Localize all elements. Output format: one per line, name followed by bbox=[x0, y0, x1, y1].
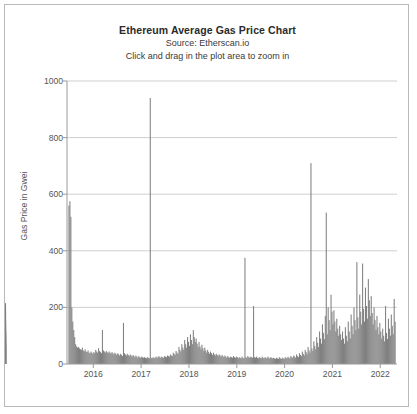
bar bbox=[329, 320, 330, 364]
bar bbox=[333, 310, 334, 364]
bar bbox=[96, 352, 97, 364]
bar bbox=[207, 350, 208, 364]
bar bbox=[250, 357, 251, 364]
bar bbox=[89, 353, 90, 364]
bar bbox=[128, 355, 129, 364]
bar bbox=[211, 353, 212, 364]
bar bbox=[209, 354, 210, 364]
bar bbox=[225, 357, 226, 364]
bar bbox=[366, 306, 367, 364]
bar bbox=[159, 357, 160, 364]
bar bbox=[297, 356, 298, 364]
bar bbox=[202, 348, 203, 364]
bar bbox=[387, 339, 388, 364]
bar bbox=[352, 326, 353, 364]
bar bbox=[361, 324, 362, 364]
bar bbox=[241, 358, 242, 364]
bar bbox=[304, 356, 305, 364]
bar bbox=[226, 358, 227, 364]
bar bbox=[260, 358, 261, 364]
bar bbox=[5, 352, 6, 364]
bar bbox=[239, 357, 240, 364]
bar bbox=[170, 354, 171, 364]
bar bbox=[224, 356, 225, 364]
bar bbox=[84, 351, 85, 364]
bar bbox=[252, 358, 253, 364]
bar bbox=[201, 345, 202, 364]
bar bbox=[388, 319, 389, 364]
bar bbox=[109, 352, 110, 364]
bar bbox=[254, 357, 255, 364]
x-tick-label: 2020 bbox=[260, 369, 310, 379]
bar bbox=[124, 353, 125, 364]
bar bbox=[90, 352, 91, 364]
bar bbox=[282, 358, 283, 364]
bar bbox=[142, 357, 143, 364]
bar bbox=[235, 358, 236, 364]
bar bbox=[319, 331, 320, 364]
bar bbox=[275, 359, 276, 364]
bar bbox=[218, 356, 219, 364]
bar bbox=[71, 307, 72, 364]
x-tick-label: 2022 bbox=[355, 369, 405, 379]
bar bbox=[386, 333, 387, 364]
bar bbox=[274, 358, 275, 364]
bar bbox=[78, 347, 79, 364]
bar bbox=[178, 347, 179, 364]
bar bbox=[303, 354, 304, 364]
bar bbox=[339, 326, 340, 364]
bar bbox=[191, 340, 192, 364]
bar bbox=[300, 355, 301, 364]
bar bbox=[287, 357, 288, 364]
bar bbox=[132, 357, 133, 364]
bar bbox=[139, 357, 140, 364]
bar bbox=[285, 357, 286, 364]
bar bbox=[168, 356, 169, 364]
bar bbox=[261, 358, 262, 364]
bar bbox=[247, 356, 248, 364]
bar bbox=[129, 356, 130, 364]
bar bbox=[220, 356, 221, 364]
bar bbox=[83, 350, 84, 364]
bar bbox=[147, 357, 148, 364]
bar bbox=[231, 357, 232, 364]
bar bbox=[324, 339, 325, 364]
bar bbox=[75, 344, 76, 364]
bar bbox=[270, 357, 271, 364]
bar bbox=[240, 358, 241, 364]
bar bbox=[368, 279, 369, 364]
bar bbox=[135, 356, 136, 364]
y-tick-label: 1000 bbox=[29, 76, 63, 86]
bar bbox=[173, 353, 174, 364]
bar bbox=[150, 98, 151, 364]
bar bbox=[106, 351, 107, 364]
gas-price-plot[interactable] bbox=[5, 5, 410, 408]
bar bbox=[242, 357, 243, 364]
plot-area-container[interactable]: Gas Price in Gwei 02004006008001000 2016… bbox=[5, 5, 410, 408]
bar bbox=[80, 349, 81, 364]
bar bbox=[205, 350, 206, 364]
bar bbox=[251, 357, 252, 364]
bar bbox=[394, 299, 395, 364]
bar bbox=[120, 354, 121, 364]
bar bbox=[70, 217, 71, 364]
bar bbox=[177, 353, 178, 364]
bar bbox=[262, 357, 263, 364]
bar bbox=[214, 354, 215, 364]
bar bbox=[141, 357, 142, 364]
bar bbox=[343, 339, 344, 364]
bar bbox=[341, 340, 342, 364]
bar bbox=[123, 323, 124, 364]
bar bbox=[115, 354, 116, 364]
bar bbox=[376, 316, 377, 364]
bar bbox=[309, 350, 310, 364]
bar bbox=[166, 357, 167, 364]
bar bbox=[336, 319, 337, 364]
bar bbox=[69, 201, 70, 364]
bar bbox=[236, 357, 237, 364]
bar bbox=[356, 262, 357, 364]
bar bbox=[350, 339, 351, 364]
bar bbox=[269, 358, 270, 364]
bar bbox=[182, 348, 183, 364]
bar bbox=[88, 350, 89, 364]
